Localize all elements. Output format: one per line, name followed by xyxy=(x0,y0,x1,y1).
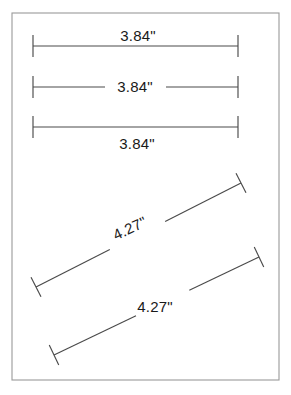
dimension-label: 3.84" xyxy=(117,78,153,95)
dimension-tick-start xyxy=(31,277,41,297)
dimension-label: 4.27" xyxy=(137,298,173,315)
dimension-line-left xyxy=(54,316,136,355)
drawing-border xyxy=(12,13,279,380)
drawing-canvas: 3.84" 3.84" 3.84" 4.27" xyxy=(0,0,291,395)
dimension-tick-start xyxy=(49,345,58,365)
dimension-horizontal-2: 3.84" xyxy=(33,76,238,98)
dimension-label: 4.27" xyxy=(110,213,149,243)
dimension-line-right xyxy=(165,183,241,221)
dimension-diagonal-2: 4.27" xyxy=(49,247,263,365)
dimension-label: 3.84" xyxy=(120,27,156,44)
dimension-tick-end xyxy=(236,173,246,193)
dimension-horizontal-3: 3.84" xyxy=(33,116,238,152)
dimension-label: 3.84" xyxy=(119,135,155,152)
dimension-tick-end xyxy=(254,247,263,267)
dimension-drawing-svg: 3.84" 3.84" 3.84" 4.27" xyxy=(0,0,291,395)
dimension-horizontal-1: 3.84" xyxy=(33,27,238,57)
dimension-line-left xyxy=(36,250,110,287)
dimension-line-right xyxy=(189,257,259,290)
